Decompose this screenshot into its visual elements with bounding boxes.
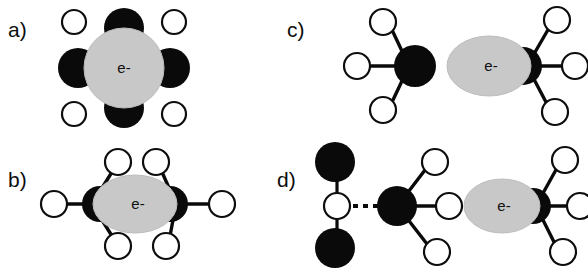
white-circle-d-bridge [324, 193, 350, 219]
panel-b: b) e- [0, 136, 291, 272]
white-circle-c-6 [542, 99, 568, 125]
white-circle-d-1 [436, 193, 462, 219]
panel-c: c) e- [291, 0, 582, 136]
electron-label-d: e- [497, 197, 510, 214]
panel-c-label: c) [287, 18, 305, 42]
panel-c-graphic: e- [311, 0, 586, 136]
panel-d-graphic: e- [303, 136, 588, 272]
white-circle-c-5 [544, 7, 570, 33]
white-circle-c-1 [344, 53, 370, 79]
electron-label-b: e- [131, 195, 144, 212]
panel-a-graphic: e- [48, 0, 278, 136]
panel-d: d) [291, 136, 582, 272]
panel-a: a) e- [0, 0, 291, 136]
white-circle-b-5 [143, 149, 169, 175]
white-circle-bottom-right [162, 102, 186, 126]
black-atom-d-bottom [315, 228, 355, 268]
white-circle-d-5 [552, 147, 578, 173]
panel-a-label: a) [8, 18, 27, 42]
white-circle-c-2 [370, 9, 396, 35]
black-atom-d-top [315, 142, 355, 182]
panel-d-label: d) [277, 168, 296, 192]
white-circle-b-4 [209, 191, 235, 217]
white-circle-top-right [162, 10, 186, 34]
white-circle-d-4 [567, 193, 588, 219]
white-circle-d-6 [550, 239, 576, 265]
white-circle-b-2 [105, 149, 131, 175]
panel-b-graphic: e- [30, 136, 280, 272]
white-circle-b-6 [153, 233, 179, 259]
electron-label-c: e- [484, 57, 497, 74]
white-circle-d-2 [422, 149, 448, 175]
black-atom-c-left [394, 45, 436, 87]
white-circle-d-3 [424, 239, 450, 265]
white-circle-c-3 [370, 97, 396, 123]
electron-label-a: e- [117, 59, 130, 76]
white-circle-c-4 [562, 53, 588, 79]
white-circle-top-left [62, 10, 86, 34]
black-atom-d-center [377, 186, 417, 226]
white-circle-b-1 [41, 191, 67, 217]
panel-b-label: b) [8, 168, 27, 192]
white-circle-bottom-left [62, 102, 86, 126]
white-circle-b-3 [105, 233, 131, 259]
